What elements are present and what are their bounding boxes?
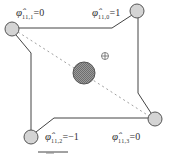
label-subscript: 11,2 — [51, 138, 62, 144]
label-bottom-right: φ̂11,3=0 — [112, 131, 140, 144]
label-subscript: 11,1 — [22, 14, 33, 20]
circled-plus-icon — [102, 53, 109, 60]
label-subscript: 11,0 — [98, 14, 109, 20]
element-diagram — [0, 0, 169, 157]
center-hatched-circle — [73, 62, 95, 84]
node-top-right — [130, 4, 144, 18]
node-top-left — [5, 22, 19, 36]
bottom-edge — [36, 118, 149, 132]
label-bottom-left: φ̂11,2=−1 — [45, 131, 79, 144]
label-top-right: φ̂11,0=1 — [92, 7, 120, 20]
label-value: =−1 — [63, 131, 79, 142]
label-value: =0 — [130, 131, 141, 142]
label-value: =0 — [34, 7, 45, 18]
node-bottom-right — [148, 112, 162, 126]
left-edge — [16, 35, 31, 130]
label-value: =1 — [110, 7, 121, 18]
label-subscript: 11,3 — [118, 138, 129, 144]
label-top-left: φ̂11,1=0 — [16, 7, 44, 20]
node-bottom-left — [24, 130, 38, 144]
right-edge — [138, 18, 151, 113]
